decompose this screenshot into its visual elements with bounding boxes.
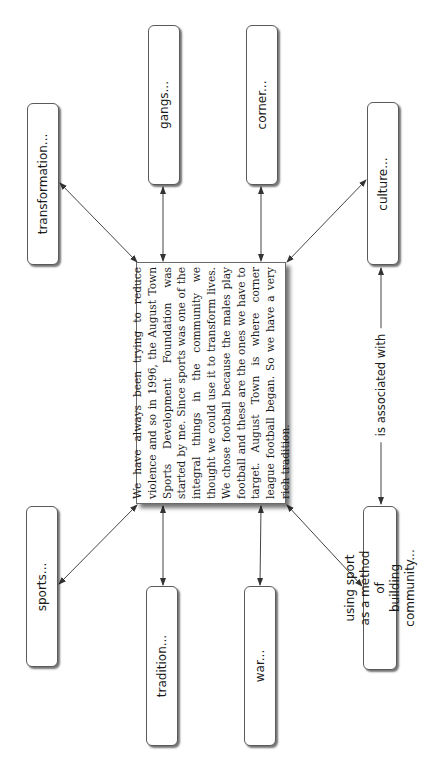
node-corner[interactable]: corner... [246, 25, 278, 185]
node-label: transformation... [36, 134, 51, 235]
node-label: culture... [376, 157, 391, 210]
node-sports[interactable]: sports... [26, 506, 58, 667]
central-quote-box[interactable]: We have always been trying to reduce vio… [136, 262, 286, 504]
edge-sports [59, 505, 137, 584]
node-culture[interactable]: culture... [367, 102, 399, 265]
node-label: sports... [35, 562, 50, 611]
node-label: tradition... [155, 635, 170, 697]
node-label: using sport as a method of building comm… [343, 549, 418, 626]
concept-map: We have always been trying to reduce vio… [0, 0, 434, 779]
node-using-sport[interactable]: using sport as a method of building comm… [363, 506, 397, 670]
node-tradition[interactable]: tradition... [146, 586, 178, 746]
node-war[interactable]: war... [244, 586, 276, 746]
central-quote-text: We have always been trying to reduce vio… [130, 267, 293, 499]
edge-transformation [60, 183, 137, 262]
node-label: gangs... [157, 81, 172, 129]
node-gangs[interactable]: gangs... [148, 25, 180, 185]
node-transformation[interactable]: transformation... [27, 103, 59, 265]
edge-war [260, 506, 261, 585]
node-label: corner... [255, 81, 270, 130]
edge-culture [287, 180, 366, 262]
node-label: war... [253, 650, 268, 682]
edge-label-is-associated-with: is associated with [374, 328, 388, 442]
